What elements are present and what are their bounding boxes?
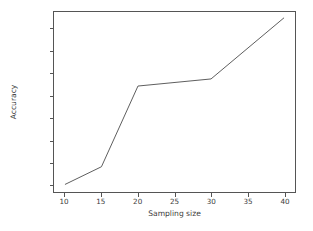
x-tick-mark [285,193,286,197]
chart-figure: 84.20084.22584.25084.27584.30084.32584.3… [0,0,313,231]
x-axis-label: Sampling size [53,209,296,218]
x-tick-mark [248,193,249,197]
x-tick-mark [64,193,65,197]
x-tick-label: 25 [170,198,179,205]
x-tick-mark [211,193,212,197]
plot-area [53,11,296,193]
x-tick-label: 20 [133,198,142,205]
x-tick-label: 10 [59,198,68,205]
accuracy-line [65,18,284,185]
x-tick-label: 30 [207,198,216,205]
x-tick-mark [175,193,176,197]
y-axis-label: Accuracy [9,85,18,120]
x-tick-mark [101,193,102,197]
line-series-svg [54,12,295,192]
x-tick-label: 40 [280,198,289,205]
x-tick-label: 35 [244,198,253,205]
x-tick-mark [138,193,139,197]
x-tick-label: 15 [96,198,105,205]
